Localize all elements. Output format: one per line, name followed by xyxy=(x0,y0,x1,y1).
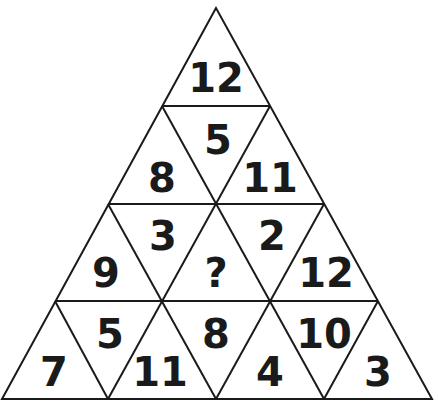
cell-value: 11 xyxy=(132,349,188,395)
cell-value: 5 xyxy=(204,117,232,163)
triangle-puzzle: 12 8 5 11 9 3 ? 2 12 7 5 11 8 4 10 3 xyxy=(0,0,438,407)
cell-value: 12 xyxy=(188,55,244,101)
cell-value: 12 xyxy=(298,250,354,296)
cell-value: 4 xyxy=(256,349,284,395)
cell-value: 9 xyxy=(92,250,120,296)
cell-value: 8 xyxy=(148,155,176,201)
cell-value: 7 xyxy=(40,349,68,395)
question-mark: ? xyxy=(204,250,227,296)
cell-value: 3 xyxy=(149,213,177,259)
cell-value: 8 xyxy=(202,311,230,357)
cell-value: 5 xyxy=(96,311,124,357)
cell-value: 11 xyxy=(242,155,298,201)
cell-value: 10 xyxy=(296,311,352,357)
cell-value: 2 xyxy=(258,213,286,259)
cell-value: 3 xyxy=(364,349,392,395)
